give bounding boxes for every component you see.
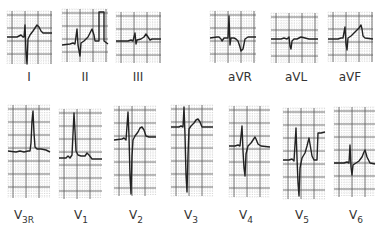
ecg-panel-v4 <box>229 106 270 197</box>
ecg-trace <box>334 145 375 175</box>
lead-label-v5: V5 <box>295 209 309 225</box>
ecg-grid <box>334 107 375 197</box>
ecg-grid <box>62 9 108 62</box>
ecg-panel-v2 <box>114 106 156 196</box>
ecg-panel-avf <box>328 12 373 62</box>
lead-label-avr: aVR <box>228 71 252 83</box>
ecg-panel-iii <box>116 12 161 63</box>
lead-label-avf: aVF <box>339 71 361 83</box>
ecg-grid <box>8 105 50 198</box>
ecg-trace <box>114 112 156 194</box>
ecg-grid <box>116 12 161 63</box>
lead-label-ii: II <box>81 71 88 83</box>
ecg-panel-v6 <box>334 107 375 197</box>
ecg-panel-v5 <box>283 108 325 199</box>
ecg-grid <box>283 108 325 199</box>
lead-label-v3r: V3R <box>14 209 34 225</box>
ecg-panel-ii <box>62 9 108 62</box>
ecg-grid <box>210 11 256 63</box>
ecg-grid <box>114 106 156 196</box>
ecg-grid <box>229 106 270 197</box>
lead-label-i: I <box>27 71 31 83</box>
lead-label-v2: V2 <box>129 209 143 225</box>
lead-label-iii: III <box>133 71 144 83</box>
ecg-panel-avl <box>271 13 318 63</box>
ecg-grid <box>328 12 373 62</box>
ecg-panel-v3r <box>8 105 50 198</box>
ecg-trace <box>171 107 213 192</box>
ecg-grid <box>7 11 52 64</box>
ecg-panel-i <box>7 11 52 64</box>
lead-label-avl: aVL <box>285 71 307 83</box>
lead-label-v4: V4 <box>239 209 253 225</box>
lead-label-v1: V1 <box>74 209 88 225</box>
ecg-grid <box>271 13 318 63</box>
ecg-panel-avr <box>210 11 256 63</box>
ecg-trace <box>8 111 50 152</box>
lead-label-v3: V3 <box>184 209 198 225</box>
ecg-trace <box>229 126 270 176</box>
ecg-trace <box>7 25 52 64</box>
ecg-grid <box>171 105 213 196</box>
ecg-panel-v3 <box>171 105 213 196</box>
lead-label-v6: V6 <box>349 209 363 225</box>
ecg-panel-v1 <box>59 109 102 199</box>
ecg-grid <box>59 109 102 199</box>
